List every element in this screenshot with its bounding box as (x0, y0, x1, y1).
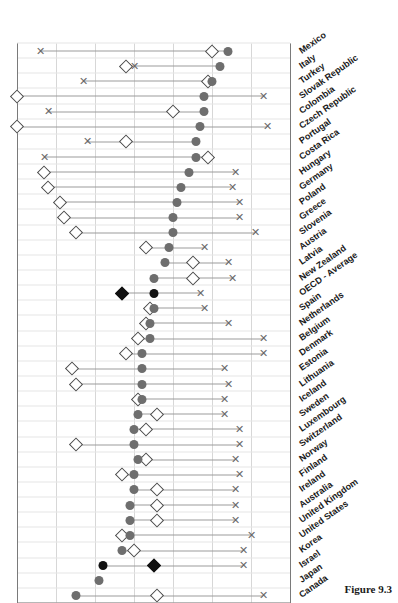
category-gridline (17, 284, 290, 285)
category-gridline (17, 178, 290, 179)
circle-marker (200, 107, 209, 116)
cross-marker (226, 272, 237, 283)
circle-marker (126, 530, 135, 539)
diamond-marker (185, 271, 199, 285)
diamond-marker (65, 361, 79, 375)
category-gridline (17, 87, 290, 88)
cross-marker (234, 469, 245, 480)
circle-marker (176, 182, 185, 191)
category-gridline (17, 103, 290, 104)
cross-marker (222, 257, 233, 268)
circle-marker (98, 561, 107, 570)
cross-marker (246, 529, 257, 540)
circle-marker (133, 455, 142, 464)
circle-marker (126, 500, 135, 509)
diamond-marker (201, 149, 215, 163)
cross-marker (218, 393, 229, 404)
circle-marker (94, 576, 103, 585)
circle-marker (192, 137, 201, 146)
category-gridline (17, 436, 290, 437)
circle-marker (145, 319, 154, 328)
range-connector-line (76, 383, 228, 384)
category-gridline (17, 420, 290, 421)
range-connector-line (130, 519, 235, 520)
category-gridline (17, 330, 290, 331)
cross-marker (222, 318, 233, 329)
circle-marker (137, 349, 146, 358)
circle-marker (130, 424, 139, 433)
figure-caption: Figure 9.3 (345, 583, 392, 595)
range-connector-line (64, 217, 240, 218)
diamond-marker (10, 119, 24, 133)
circle-marker (192, 152, 201, 161)
cross-marker (234, 423, 245, 434)
diamond-marker (146, 558, 160, 572)
range-connector-line (76, 595, 263, 596)
plot-wrapper: 706050403020100CanadaJapanIsraelKoreaUni… (0, 0, 398, 603)
range-connector-line (76, 232, 255, 233)
cross-marker (199, 302, 210, 313)
cross-marker (35, 45, 46, 56)
range-connector-line (122, 474, 239, 475)
cross-marker (238, 545, 249, 556)
circle-marker (184, 167, 193, 176)
circle-marker (169, 213, 178, 222)
diamond-marker (139, 422, 153, 436)
chart-stage: 706050403020100CanadaJapanIsraelKoreaUni… (0, 0, 398, 603)
circle-marker (149, 273, 158, 282)
diamond-marker (68, 225, 82, 239)
category-gridline (17, 496, 290, 497)
cross-marker (199, 242, 210, 253)
cross-marker (249, 227, 260, 238)
range-connector-line (122, 534, 251, 535)
diamond-marker (150, 498, 164, 512)
category-gridline (17, 451, 290, 452)
range-connector-line (146, 323, 228, 324)
category-gridline (17, 239, 290, 240)
cross-marker (257, 90, 268, 101)
range-connector-line (122, 292, 200, 293)
range-connector-line (138, 338, 263, 339)
category-gridline (17, 299, 290, 300)
range-connector-line (126, 65, 220, 66)
cross-marker (226, 181, 237, 192)
range-connector-line (60, 201, 239, 202)
category-gridline (17, 511, 290, 512)
diamond-marker (150, 407, 164, 421)
circle-marker (130, 470, 139, 479)
circle-marker (137, 379, 146, 388)
category-gridline (17, 133, 290, 134)
category-gridline (17, 269, 290, 270)
plot-area: 706050403020100CanadaJapanIsraelKoreaUni… (17, 43, 290, 603)
diamond-marker (10, 89, 24, 103)
circle-marker (126, 515, 135, 524)
category-gridline (17, 390, 290, 391)
circle-marker (118, 546, 127, 555)
range-connector-line (48, 111, 204, 112)
diamond-marker (41, 180, 55, 194)
circle-marker (71, 591, 80, 600)
range-connector-line (87, 141, 196, 142)
circle-marker (137, 394, 146, 403)
category-gridline (17, 118, 290, 119)
cross-marker (218, 408, 229, 419)
circle-marker (130, 485, 139, 494)
category-gridline (17, 541, 290, 542)
diamond-marker (53, 195, 67, 209)
diamond-marker (131, 331, 145, 345)
range-connector-line (76, 444, 240, 445)
diamond-marker (37, 165, 51, 179)
category-gridline (17, 375, 290, 376)
circle-marker (133, 409, 142, 418)
diamond-marker (57, 210, 71, 224)
category-label: Mexico (297, 29, 328, 55)
cross-marker (230, 499, 241, 510)
category-gridline (17, 466, 290, 467)
diamond-marker (68, 437, 82, 451)
range-connector-line (40, 50, 227, 51)
category-gridline (17, 405, 290, 406)
circle-marker (172, 197, 181, 206)
diamond-marker (139, 240, 153, 254)
diamond-marker (115, 467, 129, 481)
cross-marker (222, 378, 233, 389)
